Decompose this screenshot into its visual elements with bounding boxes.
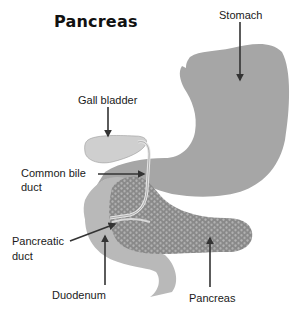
diagram-title: Pancreas [54,12,138,31]
label-pancreas: Pancreas [189,291,235,305]
label-common-bile-duct-line2: duct [21,180,42,194]
label-gall-bladder: Gall bladder [78,93,137,107]
label-duodenum: Duodenum [52,288,106,302]
gall-bladder-shape [85,135,147,162]
label-stomach: Stomach [219,8,262,22]
pancreas-diagram: Pancreas Stomach Gall bladder Common bil… [0,0,297,317]
anatomy-illustration [0,0,297,317]
label-pancreatic-duct-line2: duct [12,249,33,263]
label-pancreatic-duct-line1: Pancreatic [12,234,64,248]
label-common-bile-duct-line1: Common bile [21,166,86,180]
